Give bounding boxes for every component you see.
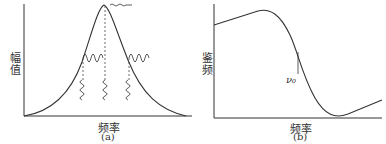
panel-a-dashed-lines: [83, 6, 129, 80]
panel-a-caption: (a): [101, 131, 115, 142]
panel-b-nu0-label: ν₀: [286, 74, 296, 85]
panel-a-left-wave: [83, 54, 103, 62]
panel-a-wave-right-vertical: [126, 80, 130, 100]
panel-a-top-wave: [110, 4, 132, 6]
panel-a-wave-center-vertical: [103, 80, 107, 100]
panel-a-ylabel: 幅值: [6, 52, 22, 76]
panel-a-wave-left-vertical: [80, 80, 84, 100]
panel-b-ylabel: 鉴频: [198, 52, 214, 76]
panel-a-right-wave: [129, 54, 149, 62]
panel-a-resonance-curve: [24, 5, 186, 116]
panel-b-caption: (b): [293, 131, 307, 142]
panel-a-axes: [24, 4, 192, 116]
figure-canvas: [0, 0, 386, 144]
